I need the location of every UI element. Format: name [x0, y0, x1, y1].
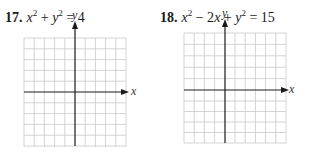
y-axis-label: y [222, 6, 227, 21]
x-axis-arrow-icon [121, 89, 129, 95]
grid-lines [184, 33, 286, 143]
x-axis-arrow-icon [281, 87, 289, 93]
coordinate-grid-18 [150, 0, 295, 153]
y-axis-label: y [72, 8, 77, 23]
x-axis-label: x [289, 82, 294, 97]
axes [184, 24, 284, 143]
axes [24, 26, 124, 146]
x-axis-label: x [131, 84, 136, 99]
